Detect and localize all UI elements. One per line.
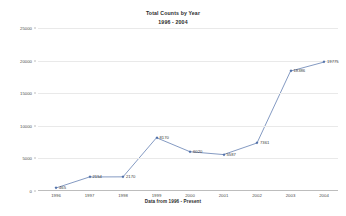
data-point-marker[interactable]: [155, 136, 158, 139]
y-tick-mark: [34, 191, 36, 192]
gridline: [38, 93, 338, 94]
y-tick-mark: [34, 93, 36, 94]
y-tick-mark: [34, 28, 36, 29]
y-tick-label: 5000: [22, 156, 32, 161]
y-tick-mark: [34, 125, 36, 126]
x-tick-label: 2003: [286, 193, 296, 198]
chart-title-subtitle: 1996 - 2004: [0, 18, 346, 26]
chart-container: Total Counts by Year 1996 - 2004 0500010…: [0, 0, 346, 216]
y-tick-mark: [34, 158, 36, 159]
x-tick-label: 2000: [185, 193, 195, 198]
y-tick-label: 10000: [20, 123, 32, 128]
x-axis-title: Data from 1996 - Present: [0, 199, 346, 204]
plot-area: 4652154217081706020558773611838619775: [38, 28, 338, 191]
x-tick-label: 1997: [85, 193, 95, 198]
gridline: [38, 158, 338, 159]
y-tick-label: 0: [30, 189, 32, 194]
y-axis: 0500010000150002000025000: [0, 28, 36, 191]
x-tick-label: 1999: [152, 193, 162, 198]
x-tick-label: 2002: [252, 193, 262, 198]
y-tick-label: 25000: [20, 26, 32, 31]
x-tick-label: 1996: [51, 193, 61, 198]
data-point-marker[interactable]: [222, 153, 225, 156]
y-tick-label: 20000: [20, 58, 32, 63]
series-line: [38, 28, 338, 191]
chart-title: Total Counts by Year 1996 - 2004: [0, 9, 346, 26]
y-tick-label: 15000: [20, 91, 32, 96]
y-tick-mark: [34, 60, 36, 61]
x-tick-label: 1998: [118, 193, 128, 198]
x-tick-label: 2004: [319, 193, 329, 198]
gridline: [38, 126, 338, 127]
gridline: [38, 61, 338, 62]
gridline: [38, 28, 338, 29]
chart-title-main: Total Counts by Year: [0, 9, 346, 17]
x-tick-label: 2001: [219, 193, 229, 198]
